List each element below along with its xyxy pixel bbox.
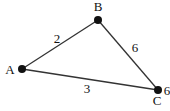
edge-weight-A-C: 3 [84,81,91,96]
node-label-C: C [153,93,162,108]
node-annotation-C: 6 [164,83,170,98]
labels: 263ABC6 [5,0,170,108]
edge-weight-B-C: 6 [132,40,139,55]
node-label-B: B [94,0,103,14]
node-B [94,16,102,24]
edge-B-C [98,20,158,90]
node-label-A: A [5,62,15,77]
triangle-graph: 263ABC6 [0,0,170,111]
edges [22,20,158,90]
node-A [18,65,26,73]
edge-weight-A-B: 2 [54,31,61,46]
